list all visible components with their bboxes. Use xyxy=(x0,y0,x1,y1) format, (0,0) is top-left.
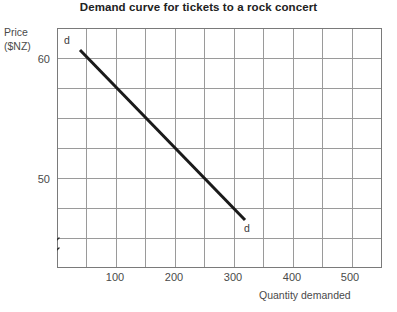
chart-title: Demand curve for tickets to a rock conce… xyxy=(0,1,397,13)
y-tick-label-60: 60 xyxy=(24,53,50,65)
plot-area xyxy=(57,28,382,268)
y-tick-label-50: 50 xyxy=(24,173,50,185)
demand-curve-chart: Demand curve for tickets to a rock conce… xyxy=(0,0,397,312)
x-axis-title: Quantity demanded xyxy=(259,289,351,301)
y-axis-title-line-1: Price xyxy=(4,26,31,40)
y-axis-title: Price ($NZ) xyxy=(4,26,31,53)
grid-horizontal-lines xyxy=(57,58,382,238)
y-axis-title-line-2: ($NZ) xyxy=(4,40,31,54)
plot-svg xyxy=(57,28,397,288)
demand-curve-line xyxy=(80,50,245,220)
